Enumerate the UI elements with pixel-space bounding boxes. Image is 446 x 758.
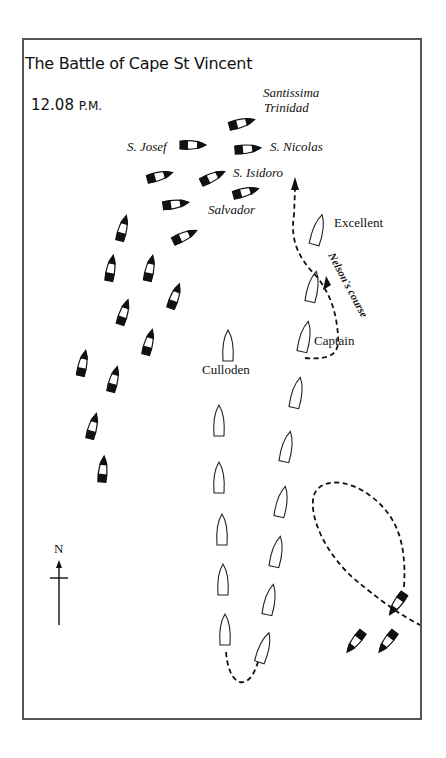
british-ship-culloden	[223, 330, 234, 361]
north-compass-icon: N	[50, 541, 68, 625]
british-ship	[214, 462, 225, 493]
label-excellent: Excellent	[334, 215, 383, 230]
spanish-ship	[104, 254, 118, 281]
spanish-ship	[115, 214, 131, 242]
spanish-ship	[343, 629, 366, 655]
spanish-ship	[386, 591, 409, 618]
british-ship	[214, 405, 225, 436]
spanish-ship	[85, 412, 101, 440]
spanish-ship-s-josef	[180, 140, 206, 149]
spanish-ship	[76, 349, 91, 376]
british-ship-captain	[297, 320, 314, 353]
label-nelsons-course: Nelson's course	[326, 249, 371, 319]
label-s-josef: S. Josef	[127, 139, 169, 154]
label-s-nicolas: S. Nicolas	[270, 139, 323, 154]
label-s-isidoro: S. Isidoro	[233, 165, 284, 180]
spanish-ship-santissima-trinidad	[228, 115, 256, 131]
spanish-ship	[146, 168, 174, 184]
spanish-ship	[97, 456, 109, 483]
british-ship	[217, 514, 228, 545]
spanish-ship	[199, 167, 227, 187]
spanish-ship	[143, 254, 158, 281]
spanish-ship-s-isidoro	[232, 184, 260, 200]
spanish-loop-path	[313, 482, 420, 625]
culloden-turn-path	[226, 652, 258, 682]
nelson-course-arrowhead	[291, 177, 299, 190]
british-ship	[218, 564, 229, 595]
british-ship	[254, 631, 274, 664]
label-santissima-line1: Santissima	[263, 85, 320, 100]
british-ship	[269, 535, 286, 568]
battle-map: Santissima Trinidad S. Josef S. Nicolas …	[0, 0, 446, 758]
label-santissima-line2: Trinidad	[264, 100, 309, 115]
label-salvador: Salvador	[208, 202, 256, 217]
spanish-ship	[171, 226, 199, 246]
british-ship	[220, 614, 231, 645]
nelson-course-midarrow	[323, 276, 331, 290]
british-ship	[279, 430, 296, 463]
spanish-ship-salvador	[162, 198, 189, 211]
spanish-ship	[116, 298, 133, 326]
compass-north-label: N	[54, 541, 64, 556]
spanish-ship	[375, 629, 398, 655]
label-captain: Captain	[314, 333, 355, 348]
label-culloden: Culloden	[202, 362, 250, 377]
british-ship	[274, 485, 291, 518]
spanish-ship-s-nicolas	[235, 143, 262, 155]
spanish-ship	[141, 328, 157, 356]
british-ship	[262, 583, 279, 616]
spanish-ship	[166, 282, 184, 310]
british-ship	[305, 270, 322, 303]
british-ship-excellent	[309, 213, 327, 246]
spanish-ship	[106, 365, 122, 393]
british-ship	[289, 376, 306, 409]
